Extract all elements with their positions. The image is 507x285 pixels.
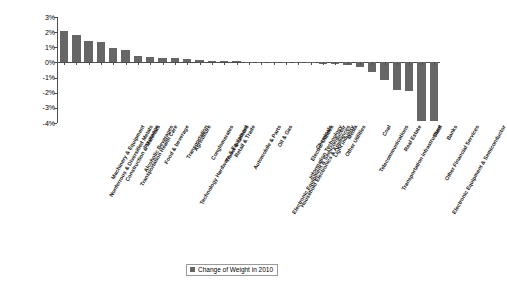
x-axis-tick-mark — [200, 62, 201, 65]
x-axis-tick-mark — [422, 62, 423, 65]
bar-item — [120, 17, 132, 123]
bar — [60, 31, 68, 63]
bar — [121, 50, 129, 62]
y-axis-tick-label: -4% — [29, 120, 55, 127]
legend-swatch-icon — [190, 267, 195, 272]
x-axis-category-label: Steel — [431, 124, 443, 138]
bar-item — [255, 17, 267, 123]
x-axis-tick-mark — [187, 62, 188, 65]
y-axis-tick-mark — [54, 78, 57, 79]
bar — [417, 62, 425, 121]
bar-item — [366, 17, 378, 123]
bar-item — [243, 17, 255, 123]
y-axis-tick-mark — [54, 17, 57, 18]
bar — [109, 48, 117, 63]
bar-item — [378, 17, 390, 123]
x-axis-tick-mark — [409, 62, 410, 65]
bar — [430, 62, 438, 121]
bar-item — [169, 17, 181, 123]
bar-item — [107, 17, 119, 123]
x-axis-tick-mark — [298, 62, 299, 65]
bar-item — [58, 17, 70, 123]
x-axis-tick-mark — [113, 62, 114, 65]
x-axis-tick-mark — [434, 62, 435, 65]
x-axis-tick-mark — [150, 62, 151, 65]
x-axis-category-label: Automobile & Parts — [252, 124, 282, 170]
y-axis-tick-label: -1% — [29, 74, 55, 81]
bar — [84, 41, 92, 62]
x-axis-tick-mark — [249, 62, 250, 65]
x-axis-tick-mark — [385, 62, 386, 65]
y-axis-tick-mark — [54, 123, 57, 124]
bar-item — [194, 17, 206, 123]
x-axis-tick-mark — [286, 62, 287, 65]
bar-item — [218, 17, 230, 123]
bar — [97, 42, 105, 62]
x-axis-tick-mark — [224, 62, 225, 65]
x-axis-tick-mark — [212, 62, 213, 65]
y-axis-tick-labels: 3%2%1%0%-1%-2%-3%-4% — [25, 0, 55, 285]
x-axis-tick-mark — [323, 62, 324, 65]
x-axis-tick-mark — [335, 62, 336, 65]
y-axis-tick-mark — [54, 47, 57, 48]
y-axis-tick-mark — [54, 108, 57, 109]
x-axis-tick-mark — [89, 62, 90, 65]
y-axis-tick-label: -3% — [29, 104, 55, 111]
x-axis-tick-mark — [261, 62, 262, 65]
x-axis-tick-mark — [101, 62, 102, 65]
y-axis-tick-label: 1% — [29, 44, 55, 51]
bar-item — [280, 17, 292, 123]
bar-item — [329, 17, 341, 123]
bar — [72, 35, 80, 62]
chart-legend: Change of Weight in 2010 — [186, 264, 278, 276]
y-axis-tick-label: 3% — [29, 14, 55, 21]
x-axis-tick-mark — [360, 62, 361, 65]
x-axis-category-labels: Nonferrous & Diversified MetalsMachinery… — [58, 124, 440, 249]
x-axis-tick-mark — [163, 62, 164, 65]
bar-item — [267, 17, 279, 123]
x-axis-tick-mark — [348, 62, 349, 65]
x-axis-tick-mark — [138, 62, 139, 65]
bar-item — [292, 17, 304, 123]
y-axis-tick-mark — [54, 62, 57, 63]
bar-item — [231, 17, 243, 123]
legend-label: Change of Weight in 2010 — [198, 266, 273, 273]
bar-item — [428, 17, 440, 123]
x-axis-tick-mark — [311, 62, 312, 65]
bar-item — [144, 17, 156, 123]
bar-item — [341, 17, 353, 123]
bar-item — [354, 17, 366, 123]
bar-item — [206, 17, 218, 123]
x-axis-category-label: Banks — [445, 124, 458, 141]
y-axis-tick-mark — [54, 93, 57, 94]
y-axis-tick-label: 0% — [29, 59, 55, 66]
bar-item — [304, 17, 316, 123]
bar-item — [181, 17, 193, 123]
y-axis-tick-mark — [54, 32, 57, 33]
x-axis-tick-mark — [175, 62, 176, 65]
bar-item — [83, 17, 95, 123]
bar-item — [132, 17, 144, 123]
y-axis-tick-label: 2% — [29, 29, 55, 36]
x-axis-category-label: Coal — [381, 124, 392, 137]
x-axis-tick-mark — [397, 62, 398, 65]
bar-item — [157, 17, 169, 123]
bar — [393, 62, 401, 89]
x-axis-tick-mark — [64, 62, 65, 65]
x-axis-tick-mark — [76, 62, 77, 65]
bar — [405, 62, 413, 91]
y-axis-tick-label: -2% — [29, 89, 55, 96]
bar-item — [317, 17, 329, 123]
x-axis-tick-mark — [237, 62, 238, 65]
bar-item — [70, 17, 82, 123]
x-axis-category-label: Electronic Equipment & Semiconductor — [451, 124, 507, 215]
bar-item — [95, 17, 107, 123]
x-axis-tick-mark — [274, 62, 275, 65]
x-axis-tick-mark — [126, 62, 127, 65]
bar-item — [403, 17, 415, 123]
x-axis-tick-mark — [372, 62, 373, 65]
bar-series — [58, 17, 440, 123]
bar-item — [391, 17, 403, 123]
bar-item — [415, 17, 427, 123]
